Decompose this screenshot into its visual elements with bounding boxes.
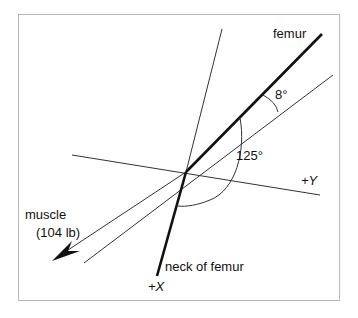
neck-of-femur-label: neck of femur [165, 259, 244, 274]
y-axis-label: +Y [301, 173, 317, 188]
angle-125-label: 125° [236, 148, 263, 163]
muscle-arrowhead-icon [52, 241, 80, 261]
reference-axis-line [84, 75, 333, 263]
muscle-label: muscle [25, 207, 66, 222]
steep-reference-line [186, 29, 222, 172]
angle-8-label: 8° [275, 87, 287, 102]
muscle-force-label: (104 lb) [36, 225, 80, 240]
x-axis-label: +X [148, 279, 164, 294]
femur-label: femur [273, 26, 306, 41]
angle-125-arc [178, 118, 242, 206]
